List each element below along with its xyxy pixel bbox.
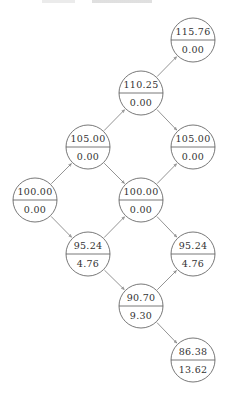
node-top-value: 90.70 (127, 292, 156, 303)
tree-node: 105.000.00 (171, 125, 215, 169)
edge-arrow (157, 217, 177, 238)
edge-arrow (104, 217, 124, 238)
edge-arrow (104, 163, 124, 183)
node-top-value: 100.00 (123, 186, 158, 197)
tree-node: 86.3813.62 (171, 338, 215, 382)
nodes-layer: 100.000.00105.000.0095.244.76110.250.001… (13, 18, 215, 382)
node-bottom-value: 13.62 (179, 364, 208, 375)
node-bottom-value: 0.00 (182, 44, 204, 55)
node-top-value: 86.38 (179, 346, 208, 357)
node-top-value: 95.24 (179, 240, 208, 251)
node-top-value: 105.00 (70, 133, 105, 144)
tree-node: 110.250.00 (119, 71, 163, 115)
edge-arrow (104, 270, 124, 289)
edge-arrow (51, 164, 71, 184)
node-bottom-value: 0.00 (182, 151, 204, 162)
binomial-tree-diagram: 100.000.00105.000.0095.244.76110.250.001… (0, 0, 228, 393)
node-top-value: 100.00 (17, 186, 52, 197)
node-top-value: 110.25 (123, 79, 158, 90)
node-bottom-value: 4.76 (77, 258, 99, 269)
node-bottom-value: 4.76 (182, 258, 204, 269)
node-top-value: 105.00 (175, 133, 210, 144)
tree-node: 100.000.00 (119, 178, 163, 222)
tree-node: 100.000.00 (13, 178, 57, 222)
node-bottom-value: 0.00 (130, 97, 152, 108)
edge-arrow (157, 57, 176, 77)
tree-node: 105.000.00 (66, 125, 110, 169)
tree-node: 95.244.76 (66, 232, 110, 276)
edge-arrow (157, 323, 177, 344)
edge-arrow (157, 110, 177, 131)
node-bottom-value: 9.30 (130, 310, 152, 321)
tree-node: 115.760.00 (171, 18, 215, 62)
edge-arrow (157, 164, 176, 184)
edge-arrow (51, 216, 71, 237)
node-bottom-value: 0.00 (130, 204, 152, 215)
edge-arrow (157, 271, 176, 290)
tree-node: 95.244.76 (171, 232, 215, 276)
node-bottom-value: 0.00 (24, 204, 46, 215)
edge-arrow (104, 110, 124, 131)
node-bottom-value: 0.00 (77, 151, 99, 162)
node-top-value: 115.76 (175, 26, 210, 37)
node-top-value: 95.24 (74, 240, 103, 251)
tree-node: 90.709.30 (119, 284, 163, 328)
